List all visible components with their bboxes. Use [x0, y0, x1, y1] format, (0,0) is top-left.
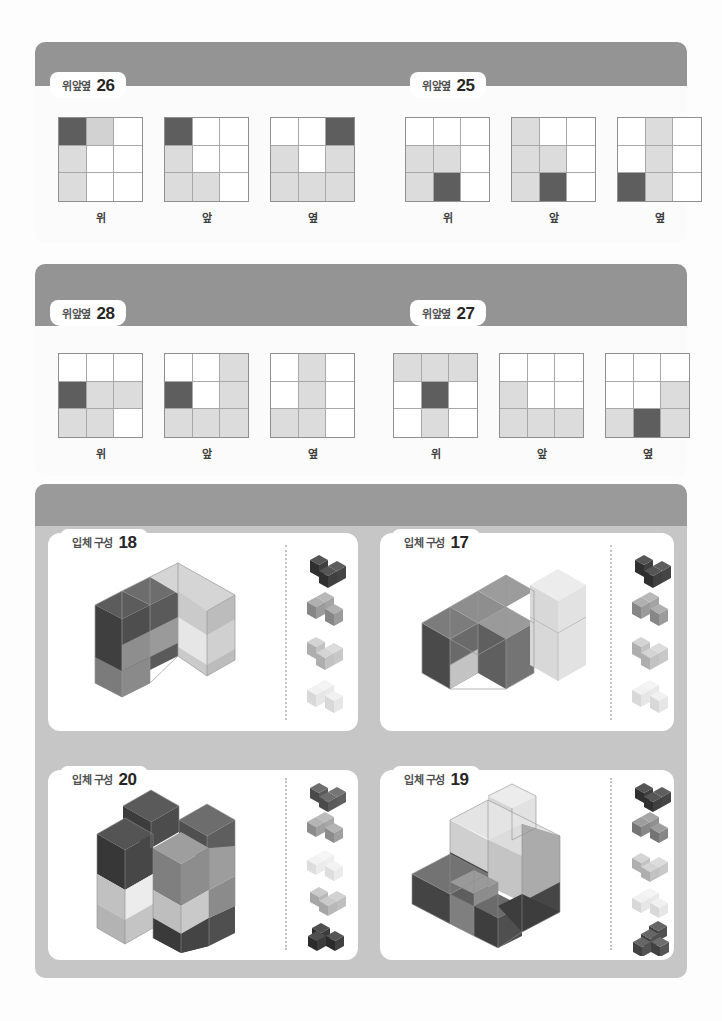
grid-cell[interactable]: [326, 354, 354, 382]
grid-cell[interactable]: [165, 409, 193, 437]
grid-cell[interactable]: [165, 382, 193, 410]
grid-cell[interactable]: [114, 146, 142, 174]
grid-cell[interactable]: [59, 146, 87, 174]
grid-cell[interactable]: [220, 354, 248, 382]
grid-cell[interactable]: [114, 382, 142, 410]
grid-cell[interactable]: [673, 118, 701, 146]
grid-cell[interactable]: [114, 118, 142, 146]
grid-cell[interactable]: [87, 382, 115, 410]
grid-cell[interactable]: [87, 146, 115, 174]
grid-cell[interactable]: [193, 118, 221, 146]
grid-cell[interactable]: [634, 409, 662, 437]
grid-cell[interactable]: [165, 354, 193, 382]
puzzle-tab-17[interactable]: 입체 구성 17: [392, 529, 480, 555]
grid-cell[interactable]: [618, 146, 646, 174]
grid-cell[interactable]: [271, 173, 299, 201]
grid-cell[interactable]: [220, 173, 248, 201]
grid-cell[interactable]: [449, 382, 477, 410]
grid-cell[interactable]: [394, 409, 422, 437]
puzzle-tab-28[interactable]: 위앞옆 28: [50, 300, 126, 326]
grid-cell[interactable]: [299, 173, 327, 201]
grid-cell[interactable]: [165, 146, 193, 174]
grid-cell[interactable]: [500, 382, 528, 410]
grid-cell[interactable]: [193, 146, 221, 174]
grid-cell[interactable]: [299, 409, 327, 437]
grid-cell[interactable]: [406, 173, 434, 201]
grid-3x3[interactable]: [605, 353, 690, 438]
grid-cell[interactable]: [87, 409, 115, 437]
grid-3x3[interactable]: [270, 353, 355, 438]
grid-cell[interactable]: [193, 173, 221, 201]
grid-3x3[interactable]: [405, 117, 490, 202]
grid-cell[interactable]: [461, 173, 489, 201]
grid-cell[interactable]: [567, 173, 595, 201]
grid-cell[interactable]: [606, 354, 634, 382]
grid-cell[interactable]: [271, 354, 299, 382]
grid-3x3[interactable]: [164, 353, 249, 438]
grid-cell[interactable]: [422, 354, 450, 382]
grid-cell[interactable]: [422, 382, 450, 410]
grid-cell[interactable]: [461, 146, 489, 174]
grid-cell[interactable]: [271, 118, 299, 146]
grid-3x3[interactable]: [58, 117, 143, 202]
grid-cell[interactable]: [618, 173, 646, 201]
grid-cell[interactable]: [540, 173, 568, 201]
puzzle-tab-26[interactable]: 위앞옆 26: [50, 72, 126, 98]
grid-cell[interactable]: [673, 173, 701, 201]
grid-3x3[interactable]: [511, 117, 596, 202]
grid-cell[interactable]: [114, 173, 142, 201]
grid-cell[interactable]: [394, 382, 422, 410]
grid-cell[interactable]: [326, 118, 354, 146]
puzzle-tab-18[interactable]: 입체 구성 18: [60, 529, 148, 555]
grid-cell[interactable]: [555, 409, 583, 437]
grid-cell[interactable]: [512, 146, 540, 174]
grid-cell[interactable]: [165, 173, 193, 201]
grid-cell[interactable]: [646, 118, 674, 146]
grid-cell[interactable]: [528, 354, 556, 382]
grid-cell[interactable]: [434, 118, 462, 146]
grid-cell[interactable]: [661, 354, 689, 382]
grid-cell[interactable]: [271, 382, 299, 410]
grid-cell[interactable]: [661, 409, 689, 437]
grid-cell[interactable]: [646, 173, 674, 201]
grid-cell[interactable]: [512, 173, 540, 201]
grid-cell[interactable]: [512, 118, 540, 146]
grid-3x3[interactable]: [617, 117, 702, 202]
grid-3x3[interactable]: [393, 353, 478, 438]
grid-cell[interactable]: [326, 409, 354, 437]
grid-cell[interactable]: [299, 382, 327, 410]
grid-cell[interactable]: [500, 354, 528, 382]
grid-cell[interactable]: [618, 118, 646, 146]
grid-cell[interactable]: [299, 118, 327, 146]
grid-cell[interactable]: [567, 146, 595, 174]
grid-cell[interactable]: [326, 146, 354, 174]
grid-cell[interactable]: [406, 118, 434, 146]
grid-cell[interactable]: [461, 118, 489, 146]
grid-cell[interactable]: [299, 146, 327, 174]
grid-3x3[interactable]: [164, 117, 249, 202]
grid-cell[interactable]: [528, 409, 556, 437]
grid-cell[interactable]: [220, 146, 248, 174]
grid-cell[interactable]: [606, 382, 634, 410]
grid-cell[interactable]: [299, 354, 327, 382]
grid-cell[interactable]: [271, 146, 299, 174]
grid-cell[interactable]: [449, 409, 477, 437]
grid-cell[interactable]: [449, 354, 477, 382]
grid-cell[interactable]: [528, 382, 556, 410]
grid-cell[interactable]: [646, 146, 674, 174]
grid-cell[interactable]: [673, 146, 701, 174]
grid-cell[interactable]: [59, 173, 87, 201]
grid-cell[interactable]: [406, 146, 434, 174]
grid-cell[interactable]: [634, 354, 662, 382]
grid-cell[interactable]: [114, 354, 142, 382]
grid-cell[interactable]: [193, 382, 221, 410]
grid-cell[interactable]: [606, 409, 634, 437]
grid-cell[interactable]: [87, 354, 115, 382]
grid-cell[interactable]: [165, 118, 193, 146]
grid-cell[interactable]: [634, 382, 662, 410]
puzzle-tab-25[interactable]: 위앞옆 25: [410, 72, 486, 98]
grid-cell[interactable]: [555, 354, 583, 382]
grid-cell[interactable]: [114, 409, 142, 437]
grid-cell[interactable]: [271, 409, 299, 437]
grid-3x3[interactable]: [270, 117, 355, 202]
